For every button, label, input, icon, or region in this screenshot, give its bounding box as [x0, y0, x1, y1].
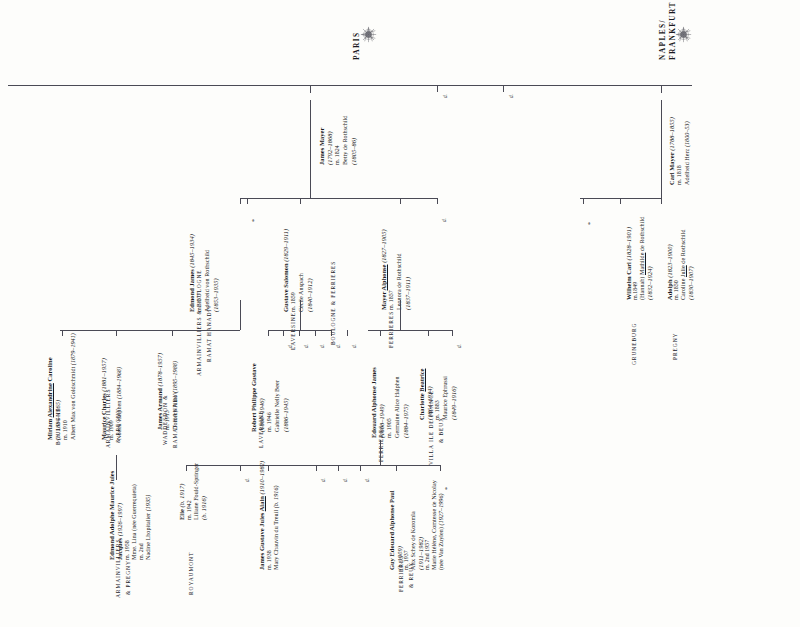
- person-gustave-salomon-spouse-dates: (1840–1912): [306, 278, 314, 312]
- stub-line-g4-a: [360, 465, 361, 471]
- family-tree-chart: PARIS NAPLES/ FRANKFURT Carl Mayer (1788…: [0, 0, 800, 627]
- person-guy-name: Guy Edouard Alphonse Paul: [388, 490, 396, 570]
- estate-maurice-charles-line1: ARMAINVILLIERS: [105, 389, 111, 448]
- person-elie-spouse-dates: (b. 1916): [200, 496, 208, 520]
- person-james-mayer-spouse-dates: (1805–86): [350, 138, 358, 165]
- descent-line-carl-mayer: [661, 100, 662, 198]
- stub-label-g3-gust-c: d.: [319, 344, 325, 348]
- stub-line-g3-gust-a: [283, 330, 284, 336]
- stub-label-g2-paris-asterisk: *: [251, 219, 257, 222]
- person-robert-philippe-marriage: m. 1946: [266, 412, 274, 432]
- descent-line-mayer-alphonse: [400, 300, 401, 330]
- person-mayer-alphonse-spouse-dates: (1837–1911): [404, 277, 412, 310]
- stub-line-g2-naples-a: [583, 198, 584, 204]
- person-carl-mayer-marriage: m. 1818: [676, 165, 684, 185]
- estate-adolph: PREGNY: [672, 333, 678, 360]
- stub-label-g4-c: d.: [320, 478, 326, 482]
- estate-charlotte-line1: VILLA ILE DE FRANCE: [428, 390, 434, 465]
- stub-label-g1-b: d.: [508, 94, 514, 98]
- person-carl-mayer-name: Carl Mayer (1788–1855): [668, 117, 676, 185]
- person-robert-philippe-name: Robert Philippe Gustave: [250, 363, 258, 432]
- person-charlotte-name: Charlotte Beatrice: [418, 369, 426, 420]
- estate-edmond-adolphe-line2: & PREGNY: [125, 560, 131, 595]
- connector-james-armand: [172, 330, 173, 336]
- person-charlotte-spouse-dates: (1849–1916): [450, 386, 458, 420]
- stub-label-g3-alph-d: d.: [456, 344, 462, 348]
- connector-charlotte-beatrice: [428, 330, 429, 336]
- stub-label-g3-gust-b: d.: [303, 344, 309, 348]
- descent-line-edmond-james: [240, 300, 241, 330]
- generation3-edmond-spine: [60, 330, 240, 331]
- estate-edmond-adolphe-line1: ARMAINVILLIERS: [115, 539, 121, 598]
- stub-line-g2-paris-asterisk: [247, 198, 248, 204]
- stub-label-g4-d: d.: [244, 478, 250, 482]
- person-robert-philippe-spouse-dates: (1886–1945): [282, 398, 290, 432]
- stub-line-g4-b: [338, 465, 339, 471]
- connector-mayer-alphonse: [400, 198, 401, 204]
- person-miriam-spouse: Albert Max von Goldschmidt (1879–1941): [70, 333, 78, 440]
- stub-line-g3-gust-c: [315, 330, 316, 336]
- person-adolph-spouse-dates: (1830–1907): [687, 266, 695, 300]
- connector-guy-edouard: [396, 465, 397, 471]
- estate-guy-line1: FERRIERES: [398, 555, 404, 592]
- connector-elie: [186, 465, 187, 471]
- stub-line-g3-alph-d: [452, 330, 453, 336]
- stub-line-g2-paris-d: [437, 198, 438, 204]
- person-james-mayer-marriage: m. 1824: [334, 145, 342, 165]
- person-edmond-adolphe-spouse2: Nadine Lhopitalier (1935): [145, 495, 153, 560]
- stub-label-g4-asterisk: *: [444, 487, 450, 490]
- stub-line-g1-a: [437, 85, 438, 92]
- estate-guy-line2: & REUX: [408, 562, 414, 588]
- person-gustave-salomon-name: Gustave Salomon (1829–1911): [282, 229, 290, 312]
- branch-label-naples-line2: FRANKFURT: [668, 1, 677, 60]
- person-james-mayer-spouse: Betty de Rothschild: [342, 116, 350, 165]
- stub-line-g4-c: [316, 465, 317, 471]
- person-edouard-spouse: Germaine Alice Halphen: [394, 376, 402, 438]
- descent-line-james-mayer: [310, 100, 311, 198]
- estate-edmond-james-line2: RAMAT HANADIV: [206, 304, 212, 362]
- connector-robert-philippe: [268, 330, 269, 336]
- stub-label-g3-gust-a: d.: [287, 344, 293, 348]
- connector-adolph: [661, 198, 662, 204]
- generation4-edouard-spine: [240, 465, 440, 466]
- rothschild-crest-icon-naples: [675, 26, 692, 43]
- person-mayer-alphonse-name: Mayer Alphonse (1827–1905): [380, 229, 388, 310]
- person-alain-spouse: Mary Chauvin du Treuil (b. 1916): [273, 485, 281, 570]
- stub-label-g3-gust-d: d.: [335, 344, 341, 348]
- person-alain-name: James Gustave Jules Alain (1910–1982): [258, 461, 266, 570]
- estate-james-armand-line2: RAMAT HANADIV: [172, 390, 178, 448]
- person-gustave-salomon-marriage: m. 1859: [290, 292, 298, 312]
- branch-label-paris: PARIS: [352, 31, 361, 60]
- connector-edouard-alphonse: [380, 330, 381, 336]
- person-edouard-spouse-dates: (1884–1975): [402, 404, 410, 438]
- connector-maurice-charles: [116, 330, 117, 336]
- descent-line-edouard: [380, 440, 381, 465]
- person-wilhelm-carl-spouse-dates: (1832–1924): [646, 266, 654, 300]
- connector-carl-mayer: [661, 85, 662, 93]
- person-guy-spouse2-note: (née Van Zuylen) (1927–1996): [438, 493, 446, 570]
- stub-label-g4-a: d.: [364, 478, 370, 482]
- person-edouard-marriage: m. 1905: [386, 418, 394, 438]
- stub-line-g3-gust-d: [331, 330, 332, 336]
- generation2-paris-spine: [240, 198, 438, 199]
- stub-line-g4-asterisk: [440, 465, 441, 471]
- generation3-gustave-spine: [268, 330, 332, 331]
- stub-label-g1-a: d.: [442, 94, 448, 98]
- estate-elie: ROYAUMONT: [188, 552, 194, 595]
- person-edouard-name: Edouard Alphonse James: [370, 367, 378, 438]
- estate-james-armand-line1: WADDESDON &: [162, 395, 168, 445]
- person-miriam-marriage: m. 1910: [62, 420, 70, 440]
- person-edmond-james-spouse-dates: (1853–1935): [212, 278, 220, 312]
- estate-edmond-james-line1: ARMAINVILLIERS & BOULOGNE: [196, 269, 202, 376]
- person-edmond-james-name: Edmond James (1845–1934): [188, 234, 196, 312]
- estate-wilhelm-carl: GRUNEBURG: [631, 323, 637, 365]
- descent-line-gustave-salomon: [300, 300, 301, 330]
- connector-alain: [268, 465, 269, 471]
- estate-charlotte-line2: & BEUX: [438, 417, 444, 443]
- connector-james-mayer: [310, 85, 311, 93]
- stub-label-g2-naples-asterisk: *: [587, 222, 593, 225]
- connector-gustave-salomon: [300, 198, 301, 204]
- stub-line-g3-gust-e: [347, 330, 348, 336]
- stub-label-g4-b: d.: [342, 478, 348, 482]
- stub-label-g3-gust-e: d.: [351, 344, 357, 348]
